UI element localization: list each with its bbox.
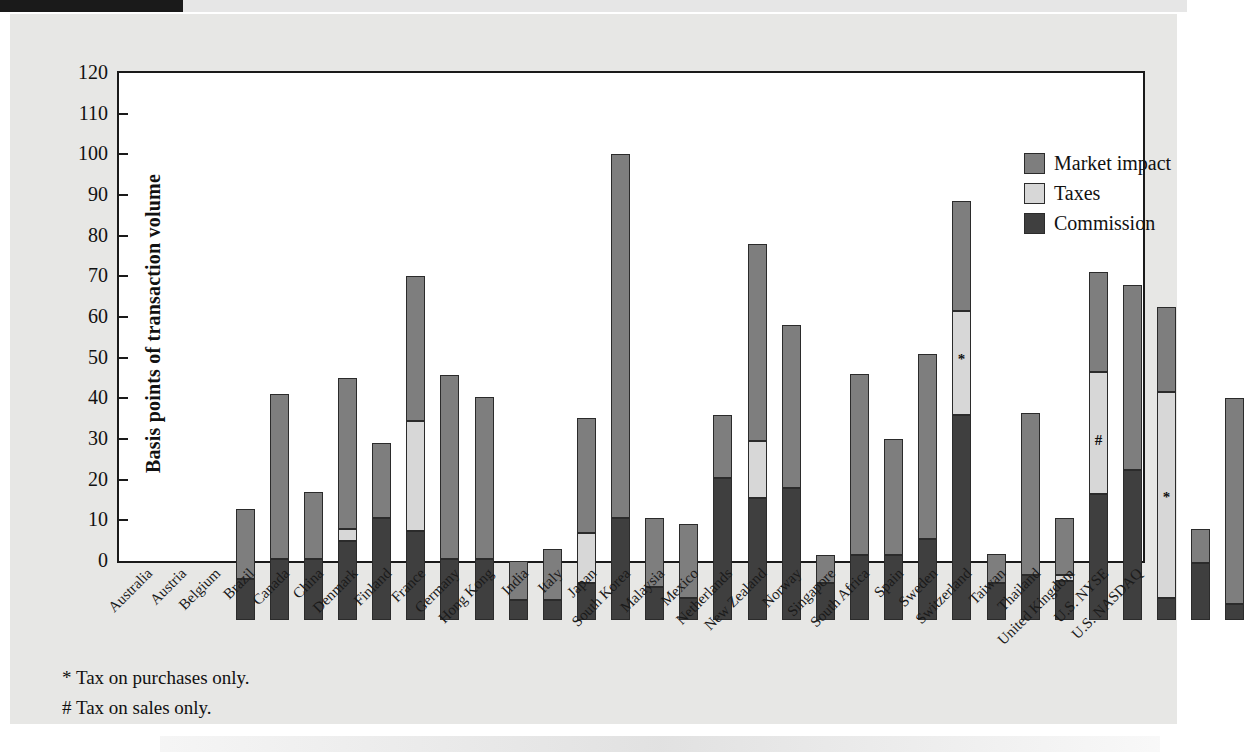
y-axis-tick-label: 70 [60, 265, 108, 285]
bar-segment-market-impact [611, 154, 630, 518]
bar-segment-market-impact [406, 276, 425, 421]
scan-edge-strip [183, 0, 1187, 12]
bar-segment-commission [1157, 598, 1176, 620]
plot-area: Basis points of transaction volume *#* M… [117, 71, 1145, 563]
bar-column[interactable] [577, 132, 596, 620]
y-axis-tick [117, 153, 128, 155]
bar-segment-taxes [748, 441, 767, 498]
legend-swatch-taxes [1024, 183, 1045, 204]
y-axis-tick-label: 30 [60, 428, 108, 448]
legend-swatch-commission [1024, 213, 1045, 234]
legend-item[interactable]: Commission [1024, 211, 1248, 235]
bar-segment-market-impact [1089, 272, 1108, 372]
bar-segment-market-impact [338, 378, 357, 528]
bar-annotation-marker: * [952, 352, 971, 367]
y-axis-tick-label: 100 [60, 143, 108, 163]
chart-figure: Basis points of transaction volume *#* M… [10, 14, 1177, 724]
scan-smudge [160, 736, 1160, 752]
bar-segment-market-impact [1225, 398, 1244, 604]
y-axis-tick [117, 235, 128, 237]
y-axis-tick [117, 397, 128, 399]
y-axis-title: Basis points of transaction volume [142, 44, 165, 604]
y-axis-tick-label: 40 [60, 387, 108, 407]
legend-item[interactable]: Market impact [1024, 151, 1248, 175]
y-axis-tick-label: 20 [60, 469, 108, 489]
y-axis-tick-label: 0 [60, 550, 108, 570]
y-axis-tick-label: 110 [60, 103, 108, 123]
bar-segment-market-impact [1123, 285, 1142, 469]
y-axis-tick-label: 60 [60, 306, 108, 326]
scan-edge-bar [0, 0, 183, 12]
bar-segment-commission [1225, 604, 1244, 620]
y-axis-tick-label: 120 [60, 62, 108, 82]
bar-segment-market-impact [713, 415, 732, 478]
footnote: # Tax on sales only. [62, 697, 250, 720]
legend-item-label: Market impact [1054, 153, 1171, 173]
y-axis-tick-label: 50 [60, 347, 108, 367]
bar-segment-market-impact [748, 244, 767, 441]
bar-annotation-marker: # [1089, 433, 1108, 448]
chart-footnotes: * Tax on purchases only.# Tax on sales o… [62, 667, 250, 727]
chart-legend: Market impactTaxesCommission [1024, 151, 1248, 241]
legend-item-label: Commission [1054, 213, 1155, 233]
legend-item-label: Taxes [1054, 183, 1100, 203]
bar-segment-market-impact [577, 418, 596, 532]
bar-segment-market-impact [782, 325, 801, 488]
y-axis-tick [117, 479, 128, 481]
legend-item[interactable]: Taxes [1024, 181, 1248, 205]
y-axis-tick [117, 113, 128, 115]
bar-segment-taxes [406, 421, 425, 531]
y-axis-tick-label: 80 [60, 225, 108, 245]
bar-segment-market-impact [918, 354, 937, 539]
y-axis-tick [117, 316, 128, 318]
y-axis-tick-label: 10 [60, 509, 108, 529]
y-axis-tick [117, 194, 128, 196]
bar-segment-market-impact [270, 394, 289, 559]
bar-annotation-marker: * [1157, 490, 1176, 505]
footnote: * Tax on purchases only. [62, 667, 250, 690]
bar-segment-market-impact [1191, 529, 1210, 564]
y-axis-tick [117, 275, 128, 277]
y-axis-tick [117, 438, 128, 440]
x-axis-labels: AustraliaAustriaBelgiumBrazilCanadaChina… [119, 565, 1143, 675]
bar-segment-market-impact [952, 201, 971, 311]
bar-segment-commission [1191, 563, 1210, 620]
legend-swatch-market-impact [1024, 153, 1045, 174]
y-axis-tick-label: 90 [60, 184, 108, 204]
bar-segment-market-impact [440, 375, 459, 559]
bar-segment-taxes [338, 529, 357, 541]
x-axis-tick-label-text: Australia [105, 565, 156, 616]
y-axis-tick [117, 357, 128, 359]
y-axis-tick [117, 519, 128, 521]
bar-segment-market-impact [372, 443, 391, 519]
bar-segment-market-impact [1157, 307, 1176, 392]
